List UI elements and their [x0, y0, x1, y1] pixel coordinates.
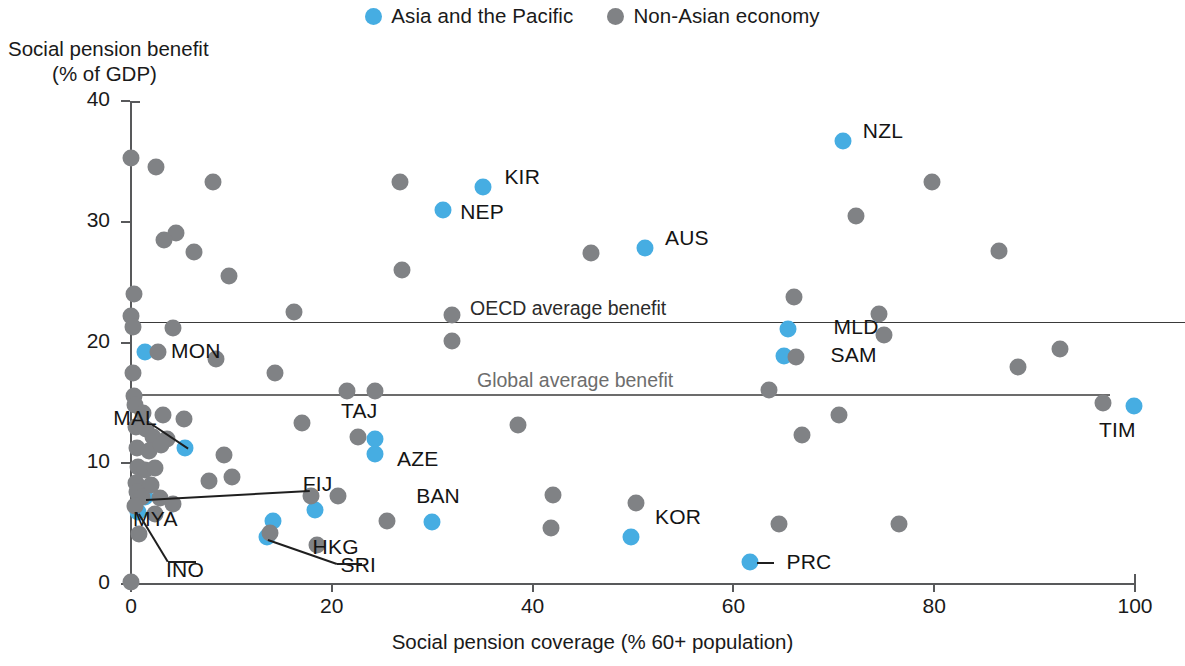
point-label-mal: MAL	[113, 406, 157, 430]
reference-line-global	[131, 394, 1110, 396]
x-tick-60	[732, 583, 734, 592]
data-point	[147, 460, 164, 477]
x-tick-label-100: 100	[1105, 594, 1165, 618]
x-tick-100	[1134, 583, 1136, 592]
data-point	[628, 495, 645, 512]
data-point-mld	[779, 321, 796, 338]
data-point	[509, 416, 526, 433]
y-tick-label-40: 40	[58, 87, 110, 111]
data-point	[847, 207, 864, 224]
data-point	[150, 344, 167, 361]
x-tick-label-0: 0	[101, 594, 161, 618]
point-label-nep: NEP	[460, 200, 504, 224]
data-point	[785, 288, 802, 305]
point-label-mon: MON	[171, 339, 221, 363]
point-label-nzl: NZL	[863, 119, 903, 143]
data-point	[542, 520, 559, 537]
data-point	[186, 243, 203, 260]
point-label-taj: TAJ	[341, 399, 377, 423]
data-point	[924, 173, 941, 190]
data-point	[760, 381, 777, 398]
data-point-fij	[306, 502, 323, 519]
reference-label-oecd: OECD average benefit	[470, 297, 666, 320]
data-point	[394, 262, 411, 279]
y-tick-30	[121, 221, 130, 223]
data-point-aze	[366, 445, 383, 462]
data-point	[126, 286, 143, 303]
data-point	[991, 242, 1008, 259]
data-point	[770, 515, 787, 532]
reference-label-global: Global average benefit	[477, 369, 673, 392]
data-point	[830, 406, 847, 423]
data-point	[123, 573, 140, 590]
data-point-nzl	[834, 132, 851, 149]
data-point	[221, 268, 238, 285]
leader-tail-1	[337, 563, 362, 565]
data-point	[224, 468, 241, 485]
x-axis-end-cap	[1134, 574, 1136, 583]
data-point	[123, 149, 140, 166]
data-point	[216, 446, 233, 463]
y-tick-label-0: 0	[58, 570, 110, 594]
point-label-mld: MLD	[834, 315, 879, 339]
data-point	[392, 173, 409, 190]
point-label-kir: KIR	[504, 165, 540, 189]
point-label-kor: KOR	[655, 505, 701, 529]
data-point-nep	[435, 201, 452, 218]
data-point	[165, 320, 182, 337]
data-point	[155, 406, 172, 423]
y-tick-40	[121, 100, 130, 102]
y-tick-10	[121, 462, 130, 464]
data-point	[153, 437, 170, 454]
point-label-aus: AUS	[665, 226, 709, 250]
x-axis-line	[130, 583, 1136, 585]
point-label-sam: SAM	[831, 343, 877, 367]
x-tick-label-80: 80	[904, 594, 964, 618]
data-point	[366, 382, 383, 399]
point-label-sri: SRI	[341, 553, 377, 577]
data-point	[148, 159, 165, 176]
x-tick-label-60: 60	[703, 594, 763, 618]
data-point	[293, 415, 310, 432]
data-point	[444, 306, 461, 323]
data-point-kor	[622, 528, 639, 545]
data-point	[201, 473, 218, 490]
data-point	[125, 318, 142, 335]
y-tick-20	[121, 342, 130, 344]
data-point	[156, 231, 173, 248]
point-label-ban: BAN	[416, 484, 460, 508]
scatter-plot-area: 403020100 020406080100 OECD average bene…	[0, 0, 1185, 666]
data-point	[582, 245, 599, 262]
x-tick-20	[331, 583, 333, 592]
data-point	[787, 348, 804, 365]
data-point-ban	[424, 514, 441, 531]
data-point	[125, 364, 142, 381]
data-point	[1094, 394, 1111, 411]
reference-line-oecd	[131, 322, 1185, 324]
point-label-aze: AZE	[397, 447, 438, 471]
data-point	[793, 427, 810, 444]
y-tick-label-30: 30	[58, 208, 110, 232]
data-point-tim	[1125, 398, 1142, 415]
y-tick-label-20: 20	[58, 329, 110, 353]
data-point-kir	[475, 178, 492, 195]
y-tick-label-10: 10	[58, 449, 110, 473]
y-axis-top-cap	[131, 101, 140, 103]
x-tick-label-40: 40	[503, 594, 563, 618]
x-tick-80	[933, 583, 935, 592]
point-label-mya: MYA	[133, 507, 178, 531]
leader-tail-2	[757, 562, 774, 564]
point-label-tim: TIM	[1099, 418, 1136, 442]
data-point	[544, 486, 561, 503]
data-point	[266, 364, 283, 381]
data-point	[891, 515, 908, 532]
leader-tail-0	[168, 561, 196, 563]
data-point	[379, 513, 396, 530]
data-point	[285, 304, 302, 321]
x-tick-label-20: 20	[302, 594, 362, 618]
data-point	[338, 382, 355, 399]
data-point	[176, 410, 193, 427]
data-point	[1051, 340, 1068, 357]
data-point	[205, 173, 222, 190]
data-point	[349, 428, 366, 445]
